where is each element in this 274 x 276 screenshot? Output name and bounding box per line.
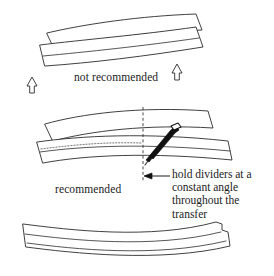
- callout-line-3: throughout the: [172, 194, 274, 207]
- figure-root: not recommended recommended hold divider…: [0, 0, 274, 276]
- callout-line-4: transfer: [172, 208, 274, 221]
- caption-recommended: recommended: [55, 184, 121, 196]
- gap-arrow-left-icon: [27, 77, 37, 93]
- callout-line-1: hold dividers at a: [172, 168, 274, 181]
- caption-not-recommended: not recommended: [74, 72, 158, 84]
- panel-bottom-reference: [23, 222, 230, 255]
- callout-line-2: constant angle: [172, 181, 274, 194]
- callout-note-text: hold dividers at a constant angle throug…: [172, 168, 274, 221]
- callout-leader-line: [144, 173, 170, 179]
- technical-illustration-canvas: [0, 0, 274, 276]
- gap-arrow-right-icon: [172, 64, 182, 80]
